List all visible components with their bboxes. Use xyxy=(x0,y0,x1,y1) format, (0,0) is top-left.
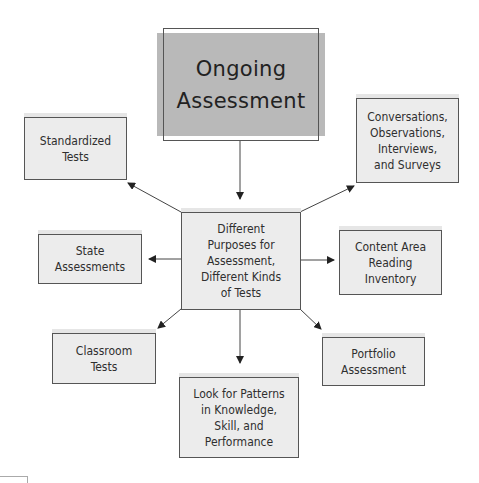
title-box-ongoing-assessment: Ongoing Assessment xyxy=(163,28,319,141)
node-look-for-patterns: Look for Patterns in Knowledge, Skill, a… xyxy=(179,377,299,458)
node-portfolio-assessment: Portfolio Assessment xyxy=(322,337,425,386)
node-conversations-observations: Conversations, Observations, Interviews,… xyxy=(356,98,459,183)
concept-diagram: Ongoing Assessment Standardized Tests Co… xyxy=(0,0,479,483)
node-state-assessments: State Assessments xyxy=(38,234,142,284)
node-classroom-tests: Classroom Tests xyxy=(52,333,156,384)
node-content-area-reading-inventory: Content Area Reading Inventory xyxy=(339,230,442,295)
center-box-different-purposes: Different Purposes for Assessment, Diffe… xyxy=(181,212,301,310)
node-standardized-tests: Standardized Tests xyxy=(24,117,127,180)
page-corner-mark xyxy=(0,476,28,483)
